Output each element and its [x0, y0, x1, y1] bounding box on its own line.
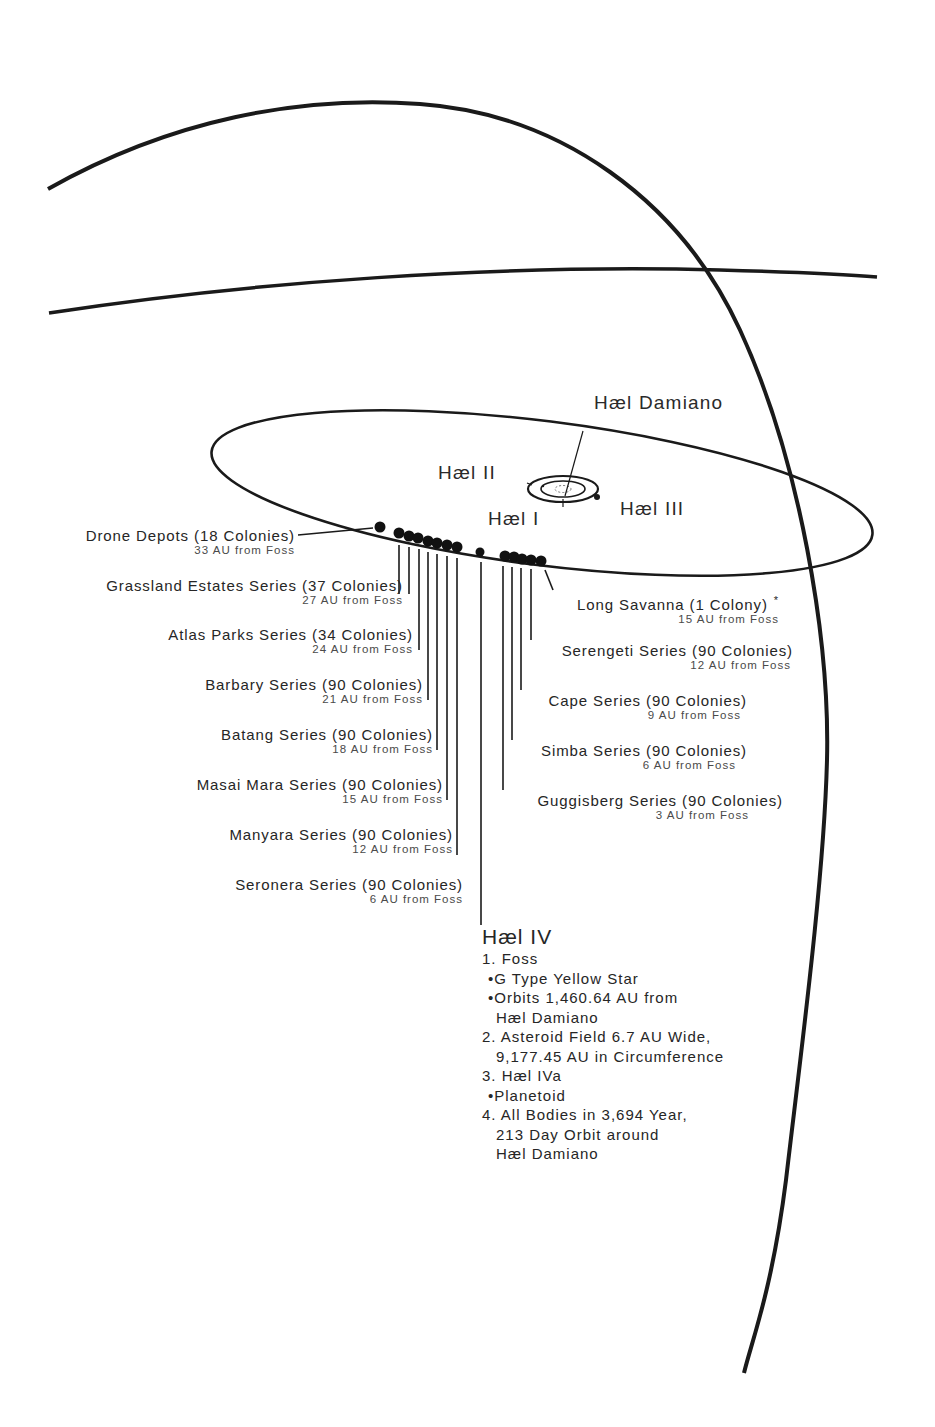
series-distance: 18 AU from Foss	[221, 743, 433, 756]
series-label-masai-mara: Masai Mara Series (90 Colonies) 15 AU fr…	[197, 776, 443, 806]
orbit-diagram-svg	[0, 0, 935, 1427]
series-distance: 15 AU from Foss	[197, 793, 443, 806]
info-line: 213 Day Orbit around	[482, 1125, 724, 1145]
hael-ii-planet-dot	[542, 485, 544, 487]
series-name: Cape Series (90 Colonies)	[549, 692, 747, 709]
info-line: Hæl Damiano	[482, 1144, 724, 1164]
hael-i-orbit	[555, 486, 571, 493]
series-distance: 24 AU from Foss	[168, 643, 413, 656]
info-line: 1. Foss	[482, 949, 724, 969]
series-label-long-savanna: Long Savanna (1 Colony)* 15 AU from Foss	[577, 592, 779, 626]
series-name: Seronera Series (90 Colonies)	[235, 876, 463, 893]
hael-iii-planet-dot	[594, 494, 600, 500]
hael-iv-orbit-ellipse	[203, 380, 882, 606]
series-label-drone-depots: Drone Depots (18 Colonies) 33 AU from Fo…	[86, 527, 295, 557]
right-colony-dots	[500, 551, 547, 567]
series-distance: 33 AU from Foss	[86, 544, 295, 557]
hael-iv-dot	[476, 548, 485, 557]
series-label-barbary: Barbary Series (90 Colonies) 21 AU from …	[205, 676, 423, 706]
hael-iv-info: Hæl IV 1. Foss •G Type Yellow Star •Orbi…	[482, 925, 724, 1164]
asterisk-marker: *	[774, 594, 779, 606]
series-distance: 9 AU from Foss	[549, 709, 747, 722]
second-orbit-arc	[49, 269, 877, 313]
series-name: Long Savanna (1 Colony)*	[577, 592, 779, 613]
info-line: 9,177.45 AU in Circumference	[482, 1047, 724, 1067]
hael-ii-orbit	[541, 481, 585, 497]
series-label-batang: Batang Series (90 Colonies) 18 AU from F…	[221, 726, 433, 756]
series-name: Grassland Estates Series (37 Colonies)	[106, 577, 403, 594]
info-line: 4. All Bodies in 3,694 Year,	[482, 1105, 724, 1125]
series-name: Barbary Series (90 Colonies)	[205, 676, 423, 693]
series-distance: 12 AU from Foss	[229, 843, 453, 856]
hael-iv-title: Hæl IV	[482, 925, 724, 949]
series-distance: 12 AU from Foss	[562, 659, 793, 672]
series-name: Atlas Parks Series (34 Colonies)	[168, 626, 413, 643]
series-distance: 6 AU from Foss	[235, 893, 463, 906]
hael-i-label: Hæl I	[488, 508, 539, 530]
series-name: Guggisberg Series (90 Colonies)	[537, 792, 783, 809]
series-distance: 6 AU from Foss	[541, 759, 747, 772]
series-label-serengeti: Serengeti Series (90 Colonies) 12 AU fro…	[562, 642, 793, 672]
series-name: Drone Depots (18 Colonies)	[86, 527, 295, 544]
series-name-text: Long Savanna (1 Colony)	[577, 596, 768, 613]
series-distance: 15 AU from Foss	[577, 613, 779, 626]
series-name: Manyara Series (90 Colonies)	[229, 826, 453, 843]
star-system-diagram: Hæl Damiano Hæl II Hæl I Hæl III Drone D…	[0, 0, 935, 1427]
info-line: •G Type Yellow Star	[482, 969, 724, 989]
left-colony-dots	[375, 522, 463, 553]
series-label-cape: Cape Series (90 Colonies) 9 AU from Foss	[549, 692, 747, 722]
info-line: 3. Hæl IVa	[482, 1066, 724, 1086]
series-name: Batang Series (90 Colonies)	[221, 726, 433, 743]
info-line: 2. Asteroid Field 6.7 AU Wide,	[482, 1027, 724, 1047]
star-leader-line	[565, 431, 583, 496]
hael-ii-label: Hæl II	[438, 462, 496, 484]
series-label-grassland-estates: Grassland Estates Series (37 Colonies) 2…	[106, 577, 403, 607]
series-label-guggisberg: Guggisberg Series (90 Colonies) 3 AU fro…	[537, 792, 783, 822]
series-distance: 21 AU from Foss	[205, 693, 423, 706]
hael-iii-orbit	[528, 476, 598, 502]
series-distance: 27 AU from Foss	[106, 594, 403, 607]
series-name: Masai Mara Series (90 Colonies)	[197, 776, 443, 793]
series-label-atlas-parks: Atlas Parks Series (34 Colonies) 24 AU f…	[168, 626, 413, 656]
series-label-simba: Simba Series (90 Colonies) 6 AU from Fos…	[541, 742, 747, 772]
info-line: •Planetoid	[482, 1086, 724, 1106]
info-line: •Orbits 1,460.64 AU from	[482, 988, 724, 1008]
series-distance: 3 AU from Foss	[537, 809, 783, 822]
series-label-seronera: Seronera Series (90 Colonies) 6 AU from …	[235, 876, 463, 906]
series-label-manyara: Manyara Series (90 Colonies) 12 AU from …	[229, 826, 453, 856]
inner-system	[527, 431, 600, 507]
hael-iii-label: Hæl III	[620, 498, 684, 520]
series-name: Simba Series (90 Colonies)	[541, 742, 747, 759]
star-label: Hæl Damiano	[594, 392, 723, 414]
series-name: Serengeti Series (90 Colonies)	[562, 642, 793, 659]
info-line: Hæl Damiano	[482, 1008, 724, 1028]
